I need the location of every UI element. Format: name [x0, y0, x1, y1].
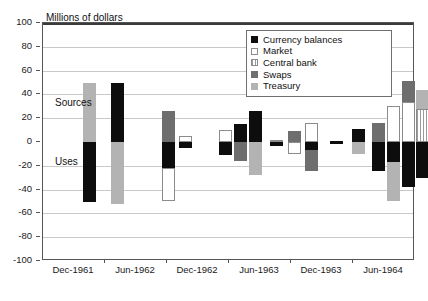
bar-segment [416, 142, 428, 178]
bar-segment [219, 130, 232, 142]
x-axis-tick-label: Dec-1961 [38, 264, 108, 275]
y-axis-tick-label: -80 [0, 231, 32, 240]
legend-item-label: Currency balances [263, 35, 342, 45]
bar-segment [352, 142, 365, 154]
legend-item: Treasury [251, 80, 387, 92]
bar-segment [330, 142, 343, 144]
gridline [43, 118, 413, 119]
bar-segment [305, 150, 318, 170]
y-axis-tick-mark [36, 141, 40, 142]
legend-item: Central bank [251, 57, 387, 69]
legend-swatch-icon [251, 71, 258, 78]
bar-segment [402, 102, 415, 142]
bar-segment [305, 142, 318, 150]
legend-swatch-icon [251, 36, 258, 43]
bar-segment [179, 142, 192, 148]
chart-container: Millions of dollars 100806040200-20-40-6… [0, 0, 428, 301]
y-axis-tick-label: 0 [0, 136, 32, 145]
bar-segment [234, 124, 247, 142]
bar-segment [83, 142, 96, 202]
bar-segment [288, 142, 301, 154]
gridline [43, 237, 413, 238]
y-axis-tick-label: -100 [0, 255, 32, 264]
plot-annotation-sources: Sources [55, 97, 92, 108]
y-axis-tick-label: 40 [0, 88, 32, 97]
bar-segment [111, 142, 124, 204]
y-axis-tick-mark [36, 236, 40, 237]
gridline [43, 166, 413, 167]
y-axis-tick-label: -40 [0, 184, 32, 193]
legend-item: Swaps [251, 69, 387, 81]
y-axis-tick-label: 20 [0, 112, 32, 121]
gridline [43, 190, 413, 191]
x-axis-tick-label: Dec-1962 [162, 264, 232, 275]
bar-segment [402, 81, 415, 101]
y-axis-tick-mark [36, 22, 40, 23]
bar-segment [416, 109, 428, 142]
bar-segment [372, 142, 385, 171]
bar-segment [162, 111, 175, 142]
bar-segment [219, 142, 232, 155]
y-axis-tick-label: -20 [0, 160, 32, 169]
bar-segment [249, 142, 262, 175]
bar-segment [387, 106, 400, 142]
bar-segment [416, 90, 428, 109]
y-axis-tick-mark [36, 165, 40, 166]
y-axis-tick-label: 60 [0, 65, 32, 74]
bar-segment [387, 142, 400, 162]
chart-legend: Currency balancesMarketCentral bankSwaps… [246, 30, 392, 97]
bar-segment [288, 131, 301, 142]
legend-item-label: Treasury [263, 81, 300, 91]
legend-swatch-icon [251, 59, 258, 66]
y-axis-tick-label: 100 [0, 17, 32, 26]
bar-segment [111, 83, 124, 143]
legend-item-label: Market [263, 46, 292, 56]
legend-item: Market [251, 46, 387, 58]
bar-segment [162, 168, 175, 201]
plot-annotation-uses: Uses [55, 156, 78, 167]
gridline [43, 213, 413, 214]
legend-item-label: Central bank [263, 58, 317, 68]
legend-item: Currency balances [251, 34, 387, 46]
y-axis-tick-mark [36, 260, 40, 261]
y-axis-tick-mark [36, 93, 40, 94]
x-axis-tick-label: Jun-1963 [224, 264, 294, 275]
legend-swatch-icon [251, 83, 258, 90]
y-axis-tick-mark [36, 70, 40, 71]
bar-segment [352, 129, 365, 142]
legend-swatch-icon [251, 48, 258, 55]
y-axis-tick-mark [36, 46, 40, 47]
x-axis-tick-label: Jun-1962 [100, 264, 170, 275]
x-axis-tick-label: Dec-1963 [286, 264, 356, 275]
bar-segment [270, 142, 283, 146]
bar-segment [372, 123, 385, 142]
y-axis-tick-mark [36, 212, 40, 213]
bar-segment [305, 123, 318, 142]
zero-axis-line [43, 23, 413, 25]
bar-segment [387, 162, 400, 201]
y-axis-tick-mark [36, 189, 40, 190]
bar-segment [249, 111, 262, 142]
bar-segment [234, 142, 247, 161]
y-axis-tick-label: 80 [0, 41, 32, 50]
x-axis-tick-label: Jun-1964 [348, 264, 418, 275]
y-axis-tick-label: -60 [0, 207, 32, 216]
bar-segment [162, 142, 175, 168]
bar-segment [402, 142, 415, 187]
legend-item-label: Swaps [263, 70, 292, 80]
y-axis-tick-mark [36, 117, 40, 118]
bar-segment [83, 83, 96, 143]
